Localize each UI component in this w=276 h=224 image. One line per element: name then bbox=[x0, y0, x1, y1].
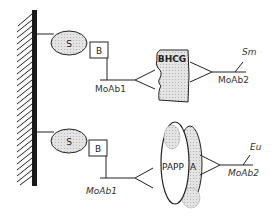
immunoassay-diagram: S B MoAb1 BHCG Sm MoAb2 S bbox=[0, 0, 276, 224]
biotin-box-bottom: B bbox=[89, 140, 107, 156]
bottom-assay: S B MoAb1 PAPP A Eu MoAb2 bbox=[37, 122, 262, 208]
moab1-label: MoAb1 bbox=[86, 186, 117, 196]
solid-surface-wall bbox=[17, 10, 37, 186]
capture-antibody-bottom bbox=[100, 168, 153, 188]
moab2-label: MoAb2 bbox=[228, 168, 259, 178]
streptavidin-label: S bbox=[66, 137, 72, 147]
biotin-label: B bbox=[96, 46, 102, 56]
streptavidin-node-bottom: S bbox=[51, 129, 87, 153]
streptavidin-label: S bbox=[66, 39, 72, 49]
papp-label: PAPP bbox=[162, 162, 184, 172]
moab2-label: MoAb2 bbox=[218, 75, 249, 85]
eu-tag-label: Eu bbox=[250, 142, 262, 152]
streptavidin-node-top: S bbox=[51, 31, 87, 55]
biotin-label: B bbox=[95, 144, 101, 154]
bhcg-analyte: BHCG bbox=[156, 50, 189, 102]
sm-tag-label: Sm bbox=[242, 47, 257, 57]
bhcg-label: BHCG bbox=[158, 54, 186, 64]
biotin-box-top: B bbox=[90, 42, 108, 58]
pappa-analyte: PAPP A bbox=[161, 122, 202, 208]
a-label: A bbox=[190, 162, 197, 172]
top-assay: S B MoAb1 BHCG Sm MoAb2 bbox=[37, 31, 257, 102]
moab1-label: MoAb1 bbox=[95, 84, 126, 94]
